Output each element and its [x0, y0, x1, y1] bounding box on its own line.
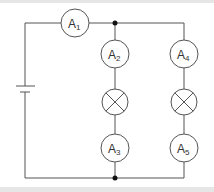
- label-a2: A2: [108, 48, 121, 63]
- lamp-right-icon: [171, 89, 197, 115]
- circuit-diagram: A1 A2 A3 A4 A5: [0, 0, 214, 192]
- lamp-left-icon: [102, 89, 128, 115]
- label-a1: A1: [68, 17, 81, 32]
- label-a4: A4: [177, 48, 190, 63]
- junction-top-dot: [113, 21, 118, 26]
- label-a5: A5: [177, 142, 190, 157]
- battery-icon: [16, 86, 35, 92]
- junction-bottom-dot: [113, 176, 118, 181]
- label-a3: A3: [108, 142, 121, 157]
